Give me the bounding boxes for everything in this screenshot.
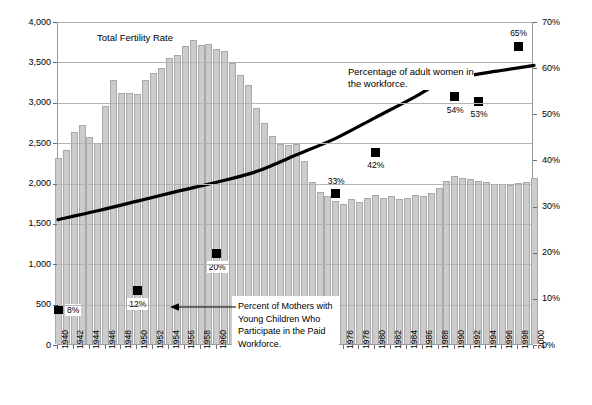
y-axis-right-tick-label: 70% (542, 18, 582, 27)
y-axis-right-tick-label: 20% (542, 248, 582, 257)
x-axis-tick (390, 345, 391, 349)
x-axis-tick-label: 1998 (521, 330, 530, 349)
y-axis-left-tick (53, 184, 57, 185)
y-axis-left-tick (53, 103, 57, 104)
x-axis-tick-label: 1980 (378, 330, 387, 349)
x-axis-tick (168, 345, 169, 349)
data-point-label: 53% (468, 108, 489, 120)
x-axis-tick (343, 345, 344, 349)
x-axis-tick-label: 1978 (362, 330, 371, 349)
y-axis-left-tick (53, 305, 57, 306)
data-point-marker (212, 249, 221, 258)
y-axis-left-tick-label: 1,000 (5, 260, 51, 269)
y-axis-left-tick-label: 0 (5, 341, 51, 350)
x-axis-tick-label: 1952 (156, 330, 165, 349)
data-point-marker (450, 92, 459, 101)
y-axis-right-tick (533, 68, 537, 69)
annotation-mothers-line3: Participate in the Paid (238, 325, 333, 338)
x-axis-tick (422, 345, 423, 349)
x-axis-tick-label: 1988 (441, 330, 450, 349)
x-axis-tick (438, 345, 439, 349)
x-axis-tick-label: 1942 (76, 330, 85, 349)
x-axis-tick (485, 345, 486, 349)
gridline (58, 103, 532, 104)
y-axis-left-tick-label: 2,500 (5, 139, 51, 148)
x-axis-tick (120, 345, 121, 349)
annotation-mothers-line2: Young Children Who (238, 313, 333, 326)
gridline (58, 62, 532, 63)
data-point-marker (133, 286, 142, 295)
x-axis-tick (406, 345, 407, 349)
data-point-marker (54, 305, 63, 314)
x-axis-tick (501, 345, 502, 349)
y-axis-left-tick-label: 4,000 (5, 18, 51, 27)
data-point-label: 54% (445, 104, 466, 116)
y-axis-right-tick (533, 22, 537, 23)
annotation-mothers-workforce: Percent of Mothers with Young Children W… (232, 296, 339, 355)
y-axis-left-tick-label: 3,000 (5, 98, 51, 107)
x-axis-tick (152, 345, 153, 349)
x-axis-tick (136, 345, 137, 349)
y-axis-left-tick-label: 1,500 (5, 219, 51, 228)
x-axis-tick (73, 345, 74, 349)
y-axis-right-tick (533, 253, 537, 254)
y-axis-right-tick-label: 0% (542, 341, 582, 350)
x-axis-tick-label: 1986 (425, 330, 434, 349)
data-point-label: 33% (326, 175, 347, 187)
annotation-women-workforce: Percentage of adult women in the workfor… (348, 66, 474, 90)
x-axis-tick (57, 345, 58, 349)
y-axis-right-tick-label: 30% (542, 202, 582, 211)
annotation-total-fertility-rate: Total Fertility Rate (97, 32, 173, 44)
y-axis-right-tick (533, 114, 537, 115)
data-point-label: 65% (508, 27, 529, 39)
data-point-label: 20% (207, 261, 228, 273)
x-axis-tick-label: 1950 (140, 330, 149, 349)
x-axis-tick (184, 345, 185, 349)
gridline (58, 143, 532, 144)
y-axis-left-tick (53, 143, 57, 144)
y-axis-right-tick (533, 299, 537, 300)
gridline (58, 184, 532, 185)
x-axis-tick (216, 345, 217, 349)
data-point-label: 42% (365, 159, 386, 171)
x-axis-tick-label: 1956 (187, 330, 196, 349)
annotation-mothers-line4: Workforce. (238, 338, 333, 351)
data-point-marker (371, 148, 380, 157)
y-axis-right-tick (533, 160, 537, 161)
y-axis-left-tick-label: 500 (5, 300, 51, 309)
data-point-marker (331, 189, 340, 198)
gridline (58, 22, 532, 23)
y-axis-right-tick-label: 40% (542, 156, 582, 165)
x-axis-tick-label: 1958 (203, 330, 212, 349)
annotation-mothers-line1: Percent of Mothers with (238, 300, 333, 313)
y-axis-left-tick (53, 224, 57, 225)
y-axis-right-tick-label: 10% (542, 294, 582, 303)
x-axis-tick-label: 1992 (473, 330, 482, 349)
x-axis-tick-label: 1944 (92, 330, 101, 349)
annotation-leader-arrow (170, 300, 240, 314)
gridline (58, 224, 532, 225)
x-axis-tick-label: 1976 (346, 330, 355, 349)
x-axis-tick (517, 345, 518, 349)
fertility-workforce-chart: 8%12%20%33%42%54%53%65% 05001,0001,5002,… (0, 0, 592, 405)
x-axis-tick-label: 1994 (489, 330, 498, 349)
x-axis-tick (105, 345, 106, 349)
data-point-label: 8% (65, 304, 81, 316)
y-axis-left-tick (53, 22, 57, 23)
y-axis-left-tick-label: 3,500 (5, 58, 51, 67)
x-axis-tick-label: 2000 (537, 330, 546, 349)
x-axis-tick (470, 345, 471, 349)
y-axis-left-tick (53, 264, 57, 265)
y-axis-right-tick-label: 50% (542, 110, 582, 119)
annotation-women-workforce-line1: Percentage of adult women in (348, 66, 474, 78)
x-axis-tick (533, 345, 534, 349)
y-axis-right-tick (533, 207, 537, 208)
data-point-label: 12% (127, 298, 148, 310)
data-point-marker (474, 97, 483, 106)
x-axis-tick (89, 345, 90, 349)
gridline (58, 264, 532, 265)
x-axis-tick-label: 1990 (457, 330, 466, 349)
y-axis-left-tick-label: 2,000 (5, 179, 51, 188)
x-axis-tick-label: 1960 (219, 330, 228, 349)
x-axis-tick-label: 1940 (61, 330, 70, 349)
